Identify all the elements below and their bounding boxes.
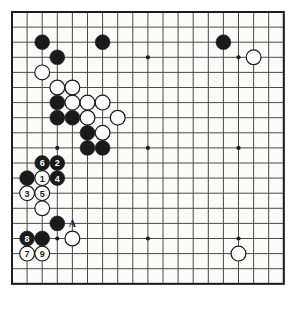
black-stone[interactable] xyxy=(80,141,95,156)
black-stone[interactable] xyxy=(50,110,65,125)
black-stone[interactable] xyxy=(95,35,110,50)
white-stone[interactable] xyxy=(95,95,110,110)
star-point xyxy=(146,236,150,240)
star-point xyxy=(236,236,240,240)
star-point xyxy=(55,146,59,150)
star-point xyxy=(146,146,150,150)
white-stone[interactable] xyxy=(231,246,246,261)
black-stone[interactable] xyxy=(35,231,50,246)
go-stone-white[interactable] xyxy=(110,110,125,125)
go-stone-white[interactable] xyxy=(95,95,110,110)
white-stone[interactable] xyxy=(50,80,65,95)
black-stone[interactable] xyxy=(20,171,35,186)
go-stone-white[interactable]: 7 xyxy=(20,246,35,261)
move-number-label: 8 xyxy=(25,234,30,244)
go-stone-white[interactable]: 1 xyxy=(35,171,50,186)
go-stone-white[interactable] xyxy=(65,231,80,246)
go-stone-white[interactable]: 9 xyxy=(35,246,50,261)
go-diagram-root: A 621435879 xyxy=(0,0,296,309)
go-stone-black[interactable] xyxy=(35,231,50,246)
go-stone-black[interactable] xyxy=(95,141,110,156)
black-stone[interactable] xyxy=(50,50,65,65)
go-stone-black[interactable] xyxy=(50,95,65,110)
go-stone-white[interactable] xyxy=(231,246,246,261)
white-stone[interactable] xyxy=(65,80,80,95)
go-stone-white[interactable] xyxy=(65,80,80,95)
go-stone-white[interactable] xyxy=(65,95,80,110)
white-stone[interactable] xyxy=(65,231,80,246)
black-stone[interactable] xyxy=(50,95,65,110)
go-stone-black[interactable]: 8 xyxy=(20,231,35,246)
go-stone-black[interactable] xyxy=(50,50,65,65)
black-stone[interactable] xyxy=(50,216,65,231)
go-stone-black[interactable]: 2 xyxy=(50,156,65,171)
black-stone[interactable] xyxy=(35,35,50,50)
star-point xyxy=(55,236,59,240)
black-stone[interactable] xyxy=(65,110,80,125)
go-stone-black[interactable]: 6 xyxy=(35,156,50,171)
star-point xyxy=(236,146,240,150)
white-stone[interactable] xyxy=(80,110,95,125)
go-stone-white[interactable] xyxy=(80,110,95,125)
white-stone[interactable] xyxy=(35,65,50,80)
go-board-canvas[interactable]: A 621435879 xyxy=(0,0,296,309)
go-stone-black[interactable]: 4 xyxy=(50,171,65,186)
move-number-label: 5 xyxy=(40,189,45,199)
white-stone[interactable] xyxy=(80,95,95,110)
go-board[interactable]: A 621435879 xyxy=(0,0,296,309)
white-stone[interactable] xyxy=(110,110,125,125)
go-stone-black[interactable] xyxy=(50,216,65,231)
go-stone-white[interactable] xyxy=(246,50,261,65)
go-stone-white[interactable] xyxy=(35,65,50,80)
go-stone-black[interactable] xyxy=(80,141,95,156)
go-stone-black[interactable] xyxy=(50,110,65,125)
move-number-label: 3 xyxy=(25,189,30,199)
black-stone[interactable] xyxy=(95,141,110,156)
move-number-label: 6 xyxy=(40,158,45,168)
go-stone-white[interactable] xyxy=(35,201,50,216)
star-point xyxy=(146,55,150,59)
go-stone-white[interactable] xyxy=(50,80,65,95)
black-stone[interactable] xyxy=(80,125,95,140)
black-stone[interactable] xyxy=(216,35,231,50)
go-stone-white[interactable]: 3 xyxy=(20,186,35,201)
star-point xyxy=(236,55,240,59)
white-stone[interactable] xyxy=(35,201,50,216)
move-number-label: 4 xyxy=(55,174,60,184)
go-stone-white[interactable]: 5 xyxy=(35,186,50,201)
go-stone-white[interactable] xyxy=(80,95,95,110)
move-number-label: 2 xyxy=(55,158,60,168)
white-stone[interactable] xyxy=(65,95,80,110)
move-number-label: 9 xyxy=(40,249,45,259)
move-number-label: 1 xyxy=(40,174,45,184)
white-stone[interactable] xyxy=(246,50,261,65)
move-number-label: 7 xyxy=(25,249,30,259)
board-marks: A xyxy=(69,218,77,229)
go-stone-black[interactable] xyxy=(95,35,110,50)
go-stone-black[interactable] xyxy=(216,35,231,50)
go-stone-black[interactable] xyxy=(20,171,35,186)
white-stone[interactable] xyxy=(95,125,110,140)
go-stone-white[interactable] xyxy=(95,125,110,140)
board-mark-letter: A xyxy=(69,218,77,229)
go-stone-black[interactable] xyxy=(35,35,50,50)
go-stone-black[interactable] xyxy=(80,125,95,140)
go-stone-black[interactable] xyxy=(65,110,80,125)
